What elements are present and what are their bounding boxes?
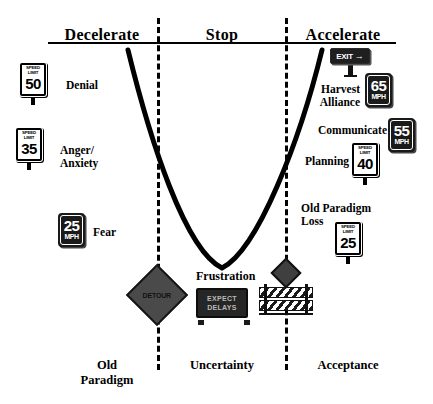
bottom-label-old-paradigm: Old Paradigm (62, 358, 152, 388)
stage-label-harvest-alliance: Harvest Alliance (302, 83, 360, 109)
board-leg-left (198, 320, 204, 325)
exit-sign: EXIT → (330, 48, 370, 77)
expect-delays-board: EXPECT DELAYS (196, 288, 248, 318)
mph-number: 55 (394, 124, 410, 138)
speed-limit-number: 25 (340, 235, 356, 250)
barricade-rail-left (264, 284, 267, 314)
arrow-right-icon: → (355, 52, 364, 61)
stage-label-fear: Fear (93, 226, 116, 239)
mph-number: 65 (371, 79, 387, 93)
board-legs (198, 320, 250, 325)
stage-label-planning: Planning (305, 155, 349, 168)
mph-sign-55: 55 MPH (388, 118, 415, 152)
stage-label-communicate: Communicate (318, 124, 387, 137)
exit-sign-label: EXIT (336, 52, 353, 61)
speed-limit-sign-35: SPEED LIMIT 35 (16, 128, 42, 170)
stage-label-anger-anxiety: Anger/ Anxiety (60, 144, 98, 170)
change-curve-diagram: Decelerate Stop Accelerate SPEED LIMIT 5… (0, 0, 433, 404)
board-leg-right (244, 320, 250, 325)
speed-limit-sign-25: SPEED LIMIT 25 (335, 222, 361, 264)
barricade-rail-right (305, 284, 308, 314)
expect-delays-line1: EXPECT (207, 294, 237, 303)
bottom-label-line1: Old (62, 358, 152, 373)
speed-limit-caption: SPEED LIMIT (22, 66, 44, 75)
speed-limit-sign-50: SPEED LIMIT 50 (20, 63, 46, 105)
mph-unit: MPH (371, 93, 385, 101)
stage-label-frustration: Frustration (196, 270, 255, 283)
stage-label-line1: Old Paradigm (301, 202, 371, 215)
speed-limit-number: 50 (25, 76, 41, 91)
detour-sign-label: DETOUR (143, 291, 171, 298)
bottom-label-acceptance: Acceptance (298, 358, 398, 373)
sign-post (27, 161, 31, 170)
speed-limit-caption: SPEED LIMIT (354, 146, 376, 155)
mph-number: 25 (64, 219, 80, 233)
stage-label-denial: Denial (66, 79, 98, 92)
sign-post (363, 176, 367, 185)
detour-sign: DETOUR (135, 273, 179, 317)
speed-limit-number: 35 (21, 141, 37, 156)
sign-post (348, 64, 353, 75)
barricade-diamond-sign (270, 257, 301, 288)
mph-unit: MPH (64, 233, 78, 241)
sign-post (346, 255, 350, 264)
mph-sign-65: 65 MPH (365, 73, 392, 107)
speed-limit-number: 40 (357, 156, 373, 171)
stage-label-line1: Anger/ (60, 144, 98, 157)
speed-limit-caption: SPEED LIMIT (337, 225, 359, 234)
bottom-label-line2: Paradigm (62, 373, 152, 388)
speed-limit-sign-40: SPEED LIMIT 40 (352, 143, 378, 185)
stage-label-line1: Harvest (302, 83, 360, 96)
sign-post (31, 96, 35, 105)
stage-label-line2: Anxiety (60, 157, 98, 170)
mph-sign-25: 25 MPH (58, 213, 85, 247)
speed-limit-caption: SPEED LIMIT (18, 131, 40, 140)
sign-base (344, 75, 357, 77)
road-barricade (259, 262, 313, 315)
mph-unit: MPH (394, 138, 408, 146)
bottom-label-uncertainty: Uncertainty (174, 358, 270, 373)
stage-label-line2: Alliance (302, 96, 360, 109)
expect-delays-line2: DELAYS (207, 303, 237, 312)
